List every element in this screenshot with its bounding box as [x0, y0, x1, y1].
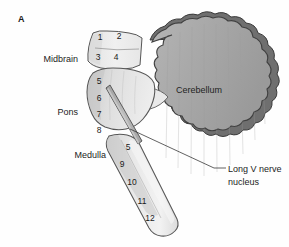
- label-pons: Pons: [57, 107, 78, 117]
- cranial-nerve-number-pons-7: 7: [97, 109, 102, 119]
- cranial-nerve-number-medulla-5: 5: [126, 142, 131, 152]
- cranial-nerve-number-medulla-12: 12: [145, 213, 155, 223]
- cranial-nerve-number-midbrain-3: 3: [96, 52, 101, 62]
- midbrain-structure: [88, 31, 142, 70]
- cranial-nerve-number-pons-8: 8: [97, 125, 102, 135]
- medulla-structure: [106, 134, 178, 236]
- callout-long-v-nerve-line2: nucleus: [228, 177, 260, 187]
- label-midbrain: Midbrain: [43, 54, 78, 64]
- cranial-nerve-number-pons-6: 6: [97, 93, 102, 103]
- label-medulla: Medulla: [74, 150, 106, 160]
- cranial-nerve-number-midbrain-2: 2: [117, 31, 122, 41]
- cranial-nerve-number-midbrain-1: 1: [98, 32, 103, 42]
- brainstem-figure-panel: A Midbrain Pons Medulla Cerebellum Long …: [0, 0, 289, 247]
- cranial-nerve-number-medulla-10: 10: [127, 177, 137, 187]
- cranial-nerve-number-medulla-11: 11: [138, 196, 147, 206]
- label-cerebellum: Cerebellum: [176, 85, 222, 95]
- cranial-nerve-number-midbrain-4: 4: [114, 52, 119, 62]
- panel-letter: A: [18, 14, 25, 24]
- callout-long-v-nerve-line1: Long V nerve: [228, 164, 282, 174]
- cranial-nerve-number-medulla-9: 9: [120, 159, 125, 169]
- cranial-nerve-number-pons-5: 5: [97, 76, 102, 86]
- brainstem-diagram-svg: A Midbrain Pons Medulla Cerebellum Long …: [0, 0, 289, 247]
